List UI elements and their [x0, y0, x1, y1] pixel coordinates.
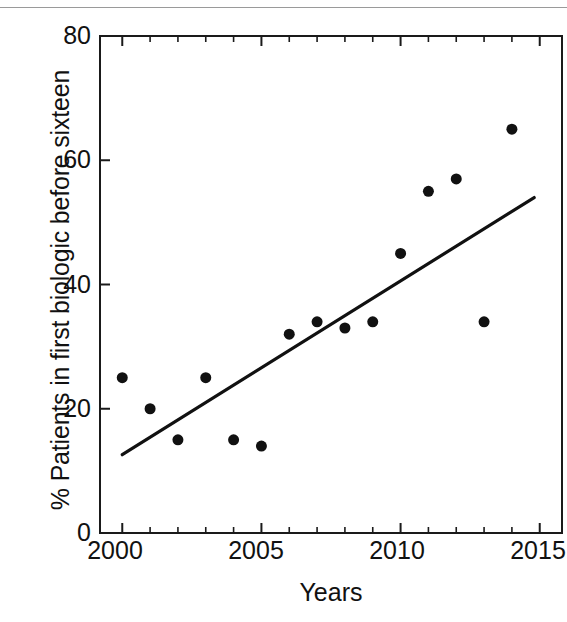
plot-area — [0, 0, 567, 622]
data-point — [172, 434, 183, 445]
data-point — [312, 316, 323, 327]
data-point — [451, 173, 462, 184]
trend-line — [122, 198, 534, 455]
axis-major-ticks — [100, 36, 540, 533]
data-point — [395, 248, 406, 259]
data-point — [200, 372, 211, 383]
data-point — [423, 186, 434, 197]
data-point — [284, 329, 295, 340]
data-point — [256, 441, 267, 452]
data-point — [228, 434, 239, 445]
data-point-markers — [117, 124, 518, 452]
data-point — [145, 403, 156, 414]
data-point — [506, 124, 517, 135]
regression-line — [122, 198, 534, 455]
axes-frame — [100, 36, 562, 533]
data-point — [117, 372, 128, 383]
data-point — [339, 322, 350, 333]
data-point — [367, 316, 378, 327]
axes-box — [100, 36, 562, 533]
scatter-plot-figure: % Patients in first biologic before sixt… — [0, 0, 567, 622]
axis-minor-ticks — [150, 36, 512, 533]
data-point — [479, 316, 490, 327]
